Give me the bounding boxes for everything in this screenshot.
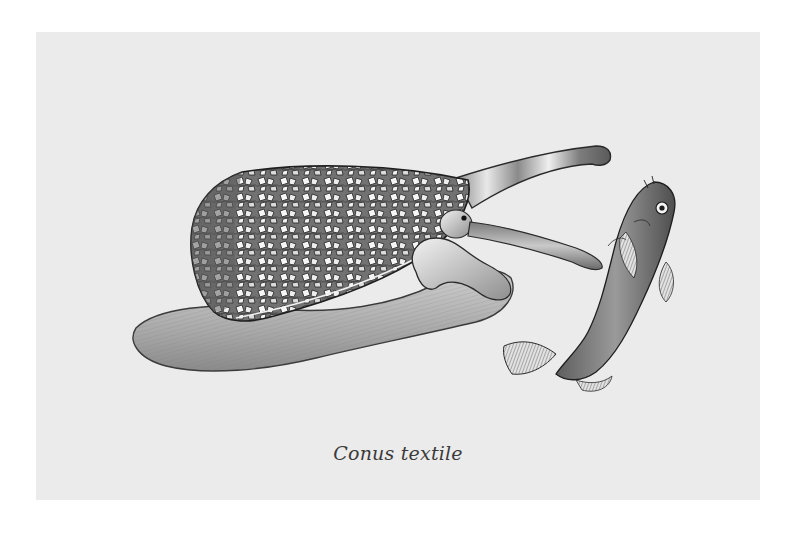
page: Conus textile — [0, 0, 799, 534]
illustration-plate: Conus textile — [36, 32, 760, 500]
cone-snail-illustration — [36, 32, 760, 500]
caption: Conus textile — [36, 442, 760, 464]
snail-siphon — [456, 146, 610, 208]
snail-eye — [461, 215, 466, 220]
fish-prey — [503, 176, 674, 391]
snail-proboscis — [468, 222, 602, 270]
